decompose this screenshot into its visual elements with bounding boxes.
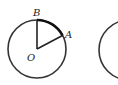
label-B: B: [32, 7, 40, 18]
label-O: O: [27, 52, 35, 63]
radius-OA: [37, 36, 63, 50]
diagram-canvas: B A O: [0, 0, 118, 85]
figure-2-circle: [99, 20, 118, 80]
arc-AB: [37, 20, 63, 36]
circle-2: [99, 20, 118, 80]
label-A: A: [64, 29, 72, 40]
figure-1-circle-sector: B A O: [8, 7, 72, 78]
